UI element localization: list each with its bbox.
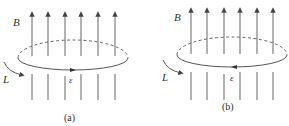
field-label-B: B (13, 16, 20, 28)
loop-direction-arrow-icon (231, 65, 237, 69)
caption-a: (a) (64, 112, 75, 124)
field-lines-upper (32, 14, 115, 56)
emf-label: ε (230, 73, 234, 83)
caption-b: (b) (222, 101, 234, 113)
loop-front-solid (18, 58, 128, 70)
loop-label-L: L (2, 73, 9, 85)
emf-label: ε (69, 75, 73, 85)
loop-back-dashed (18, 40, 128, 58)
loop-label-L: L (161, 71, 168, 83)
field-lines-lower (32, 74, 115, 100)
loop-front-solid (177, 55, 287, 67)
diagram-canvas: B L ε (a) B L ε (b) (0, 0, 289, 126)
field-lines-upper (191, 10, 273, 54)
loop-direction-arrow-icon (70, 68, 76, 72)
panel-a: B L ε (a) (2, 14, 128, 124)
panel-b: B L ε (b) (161, 10, 287, 113)
loop-back-dashed (177, 37, 287, 55)
field-label-B: B (174, 11, 181, 23)
